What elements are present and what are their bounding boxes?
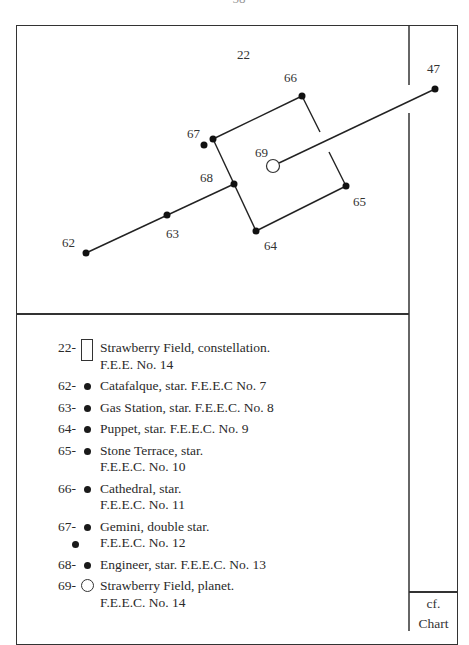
legend-item: 63- Gas Station, star. F.E.E.C. No. 8 [58, 400, 274, 417]
dot-icon [84, 562, 91, 569]
cf-chart-note: cf. Chart [409, 594, 458, 634]
svg-text:66: 66 [284, 70, 298, 85]
legend-item: 62- Catafalque, star. F.E.E.C No. 7 [58, 378, 274, 395]
circle-icon [81, 579, 94, 592]
legend-item: 64- Puppet, star. F.E.E.C. No. 9 [58, 421, 274, 438]
svg-text:63: 63 [166, 226, 179, 241]
dot-icon [84, 448, 91, 455]
svg-text:22: 22 [237, 47, 250, 62]
legend-item: 68- Engineer, star. F.E.E.C. No. 13 [58, 557, 274, 574]
star-47 [432, 86, 439, 93]
dot-icon [84, 486, 91, 493]
svg-text:69: 69 [255, 145, 268, 160]
legend-item: 67- Gemini, double star. F.E.E.C. No. 12 [58, 519, 274, 552]
legend-item: 69- Strawberry Field, planet. F.E.E.C. N… [58, 578, 274, 611]
star-62 [83, 250, 90, 257]
svg-text:67: 67 [187, 126, 201, 141]
svg-text:47: 47 [427, 61, 441, 76]
legend-item: 66- Cathedral, star. F.E.E.C. No. 11 [58, 481, 274, 514]
second-dot-icon [72, 541, 79, 548]
star-67b [201, 142, 208, 149]
star-66 [299, 93, 306, 100]
star-64 [253, 228, 260, 235]
dot-icon [84, 524, 91, 531]
star-68 [231, 181, 238, 188]
svg-text:65: 65 [353, 194, 366, 209]
star-63 [164, 212, 171, 219]
star-65 [343, 183, 350, 190]
star-67a [210, 136, 217, 143]
dot-icon [84, 383, 91, 390]
legend: 22- Strawberry Field, constellation. F.E… [58, 340, 274, 616]
planet-69 [267, 160, 280, 173]
legend-item: 65- Stone Terrace, star. F.E.E.C. No. 10 [58, 443, 274, 476]
dot-icon [84, 405, 91, 412]
svg-text:68: 68 [200, 170, 213, 185]
dot-icon [84, 426, 91, 433]
svg-text:62: 62 [62, 235, 75, 250]
svg-text:64: 64 [264, 238, 278, 253]
legend-item: 22- Strawberry Field, constellation. F.E… [58, 340, 274, 373]
rectangle-icon [81, 339, 93, 361]
